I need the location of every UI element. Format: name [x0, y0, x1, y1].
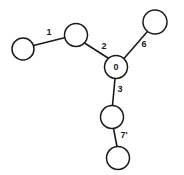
node-lower-mid[interactable] — [101, 106, 124, 129]
node-upper-right[interactable] — [143, 10, 167, 34]
edge-group — [34, 32, 148, 147]
graph-diagram: 0 1 2 6 3 7' — [0, 0, 184, 175]
edge-label-1: 1 — [46, 27, 51, 37]
node-group — [12, 10, 167, 170]
node-label-group: 0 — [113, 62, 118, 72]
edge-1-line — [34, 38, 66, 46]
edge-label-2: 2 — [101, 41, 106, 51]
edge-7-prime-line — [114, 129, 118, 147]
edge-3-line — [113, 79, 116, 106]
node-center-label: 0 — [113, 62, 118, 72]
node-left-end[interactable] — [12, 38, 34, 60]
edge-label-3: 3 — [117, 84, 122, 94]
edge-label-7-prime: 7' — [120, 130, 127, 140]
node-upper-left[interactable] — [65, 24, 88, 47]
graph-canvas: 0 1 2 6 3 7' — [0, 0, 184, 175]
edge-label-6: 6 — [141, 39, 146, 49]
node-bottom[interactable] — [107, 147, 130, 170]
edge-label-group: 1 2 6 3 7' — [46, 27, 146, 140]
